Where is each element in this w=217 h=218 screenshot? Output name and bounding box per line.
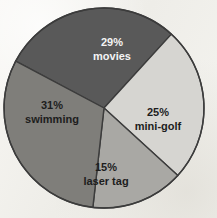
slice-name-swimming: swimming	[25, 113, 79, 125]
slice-name-laser-tag: laser tag	[83, 175, 128, 187]
slice-percent-swimming: 31%	[41, 99, 63, 111]
pie-chart: 29%movies25%mini-golf15%laser tag31%swim…	[0, 0, 217, 218]
slice-percent-mini-golf: 25%	[147, 106, 169, 118]
slice-name-mini-golf: mini-golf	[135, 120, 182, 132]
slice-percent-movies: 29%	[101, 36, 123, 48]
slice-percent-laser-tag: 15%	[95, 161, 117, 173]
slice-name-movies: movies	[93, 50, 131, 62]
pie-chart-page: 29%movies25%mini-golf15%laser tag31%swim…	[0, 0, 217, 218]
